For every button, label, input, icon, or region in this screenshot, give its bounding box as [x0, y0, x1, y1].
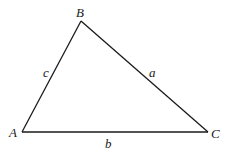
side-label-a: a — [149, 65, 156, 80]
vertex-label-b: B — [76, 5, 84, 20]
triangle-svg: B A C c a b — [0, 0, 232, 158]
triangle-diagram: B A C c a b — [0, 0, 232, 158]
side-label-c: c — [43, 65, 49, 80]
side-label-b: b — [105, 136, 112, 151]
vertex-label-c: C — [211, 126, 220, 141]
side-c — [22, 21, 81, 132]
side-a — [81, 21, 208, 132]
vertex-label-a: A — [8, 125, 17, 140]
